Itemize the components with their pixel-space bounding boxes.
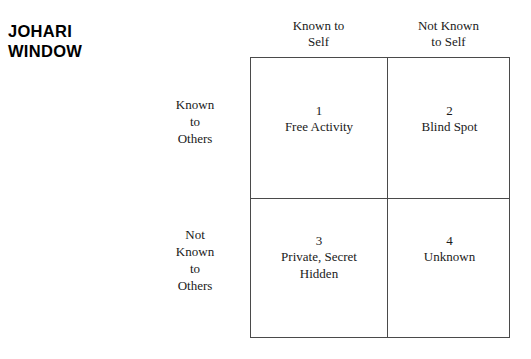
column-header-not-known-to-self-line-1: Not Known [387, 18, 510, 34]
row-label-known-to-others: Known to Others [150, 97, 240, 148]
quadrant-blind-spot-label-line-1: Blind Spot [422, 119, 478, 135]
quadrant-blind-spot: 2 Blind Spot [388, 58, 511, 198]
column-header-known-to-self-line-1: Known to [250, 18, 387, 34]
column-header-not-known-to-self-line-2: to Self [387, 34, 510, 50]
row-label-known-to-others-line-1: Known [150, 97, 240, 114]
quadrant-private-secret-hidden: 3 Private, Secret Hidden [251, 199, 387, 339]
quadrant-free-activity-number: 1 [316, 103, 323, 119]
quadrant-private-secret-hidden-number: 3 [316, 233, 323, 249]
column-header-known-to-self-line-2: Self [250, 34, 387, 50]
row-label-known-to-others-line-3: Others [150, 131, 240, 148]
page-title-line-1: JOHARI [8, 21, 158, 41]
quadrant-blind-spot-number: 2 [446, 103, 453, 119]
row-label-not-known-to-others: Not Known to Others [150, 227, 240, 295]
quadrant-free-activity: 1 Free Activity [251, 58, 387, 198]
row-label-not-known-to-others-line-4: Others [150, 278, 240, 295]
page-title: JOHARI WINDOW [8, 21, 158, 61]
row-label-not-known-to-others-line-3: to [150, 261, 240, 278]
column-header-known-to-self: Known to Self [250, 18, 387, 50]
quadrant-unknown-label-line-1: Unknown [424, 249, 475, 265]
column-header-not-known-to-self: Not Known to Self [387, 18, 510, 50]
quadrant-private-secret-hidden-label-line-2: Hidden [300, 266, 338, 282]
page-title-line-2: WINDOW [8, 41, 158, 61]
quadrant-unknown: 4 Unknown [388, 199, 511, 339]
row-label-not-known-to-others-line-2: Known [150, 244, 240, 261]
row-label-not-known-to-others-line-1: Not [150, 227, 240, 244]
johari-window-diagram: JOHARI WINDOW Known to Self Not Known to… [0, 0, 531, 359]
quadrant-free-activity-label-line-1: Free Activity [285, 119, 353, 135]
row-label-known-to-others-line-2: to [150, 114, 240, 131]
quadrant-unknown-number: 4 [446, 233, 453, 249]
quadrant-private-secret-hidden-label-line-1: Private, Secret [281, 249, 357, 265]
johari-grid: 1 Free Activity 2 Blind Spot 3 Private, … [250, 57, 510, 338]
